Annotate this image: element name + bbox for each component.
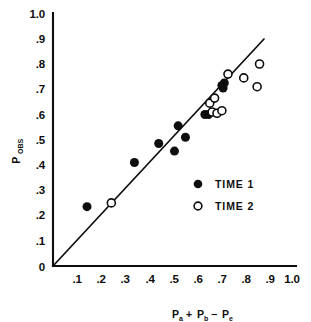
data-point [170, 147, 179, 156]
y-tick-label: .4 [36, 159, 46, 171]
data-point [107, 199, 115, 207]
data-point [224, 70, 232, 78]
x-axis-tick-labels: .1 .2 .3 .4 .5 .6 .7 .8 .9 1.0 [72, 273, 299, 285]
legend: TIME 1 TIME 2 [194, 178, 255, 212]
y-axis-title-subscript: OBS [17, 139, 24, 155]
x-tick-label: .3 [120, 273, 129, 285]
data-point [181, 133, 190, 142]
y-tick-label: 1.0 [30, 8, 45, 20]
x-tick-label: .4 [145, 273, 155, 285]
data-point [83, 202, 92, 211]
x-axis-title-operator-minus: − [211, 308, 218, 320]
legend-marker-open-circle [194, 202, 202, 210]
y-tick-label: .6 [36, 109, 45, 121]
data-point [211, 94, 219, 102]
y-axis-title-base: P [10, 156, 22, 163]
y-tick-label: .5 [36, 134, 46, 146]
legend-marker-filled-circle [194, 180, 203, 189]
y-tick-label: .9 [36, 33, 45, 45]
x-tick-label: .1 [72, 273, 82, 285]
y-tick-label: .1 [36, 235, 46, 247]
chart-figure: 1.0 .9 .8 .7 .6 .5 .4 .3 .2 .1 0 .1 .2 .… [0, 0, 311, 322]
x-tick-label: .7 [217, 273, 226, 285]
x-axis-title: P a + P b − P e [172, 308, 233, 322]
data-point [256, 60, 264, 68]
scatter-plot-svg: 1.0 .9 .8 .7 .6 .5 .4 .3 .2 .1 0 .1 .2 .… [0, 0, 311, 322]
data-point [154, 139, 163, 148]
x-tick-label: .5 [169, 273, 179, 285]
data-point [218, 107, 226, 115]
x-tick-label: 1.0 [284, 273, 299, 285]
y-tick-label: .8 [36, 58, 46, 70]
origin-label: 0 [39, 261, 45, 273]
data-series-time-1 [83, 78, 229, 211]
data-point [174, 121, 183, 130]
plot-axes [53, 13, 296, 266]
data-point [253, 83, 261, 91]
x-axis-title-term1-subscript: a [179, 315, 183, 322]
x-axis-title-term3-subscript: e [229, 315, 233, 322]
x-axis-title-term2-subscript: b [204, 315, 208, 322]
y-axis-tick-labels: 1.0 .9 .8 .7 .6 .5 .4 .3 .2 .1 0 [30, 8, 46, 273]
data-point [220, 78, 229, 87]
x-tick-label: .2 [96, 273, 105, 285]
x-tick-label: .6 [193, 273, 202, 285]
y-tick-label: .3 [36, 184, 45, 196]
data-point [130, 158, 139, 167]
y-tick-label: .7 [36, 83, 45, 95]
x-axis-title-operator-plus: + [186, 308, 193, 320]
data-point [240, 74, 248, 82]
legend-label-time-2: TIME 2 [215, 200, 254, 212]
y-axis-title: P OBS [10, 139, 24, 164]
y-tick-label: .2 [36, 209, 45, 221]
x-tick-label: .9 [265, 273, 274, 285]
x-tick-label: .8 [241, 273, 251, 285]
legend-label-time-1: TIME 1 [215, 178, 254, 190]
